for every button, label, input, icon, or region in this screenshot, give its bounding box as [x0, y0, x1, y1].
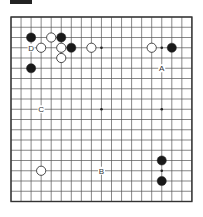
point-labels: DACB: [28, 44, 166, 176]
black-stone: [57, 33, 66, 42]
white-stone: [87, 43, 96, 52]
black-stone: [67, 43, 76, 52]
white-stone: [57, 53, 66, 62]
star-point: [160, 108, 163, 111]
star-point: [160, 46, 163, 49]
point-label-d: D: [28, 44, 34, 53]
go-board: DACB: [0, 0, 203, 217]
white-stone: [37, 166, 46, 175]
black-stone: [157, 176, 166, 185]
black-stone: [27, 64, 36, 73]
star-point: [160, 169, 163, 172]
point-label-b: B: [99, 167, 104, 176]
point-label-c: C: [38, 105, 44, 114]
black-stone: [27, 33, 36, 42]
white-stone: [147, 43, 156, 52]
star-point: [100, 108, 103, 111]
black-stone: [167, 43, 176, 52]
white-stone: [57, 43, 66, 52]
star-point: [100, 46, 103, 49]
white-stone: [37, 43, 46, 52]
point-label-a: A: [159, 64, 165, 73]
white-stone: [47, 33, 56, 42]
black-stone: [157, 156, 166, 165]
